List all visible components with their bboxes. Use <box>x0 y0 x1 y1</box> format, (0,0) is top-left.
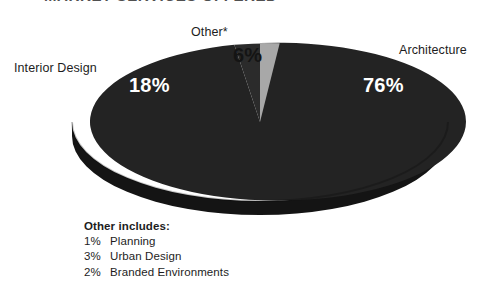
footnote-row: 3% Urban Design <box>84 249 229 264</box>
footnote-row: 1% Planning <box>84 234 229 249</box>
footnote-label: Branded Environments <box>110 265 229 280</box>
footnote-percent: 3% <box>84 249 110 264</box>
footnote-row: 2% Branded Environments <box>84 265 229 280</box>
callout-label-interior-design: Interior Design <box>14 61 97 75</box>
pie-slice-architecture <box>90 43 466 201</box>
chart-stage: Interior Design Other* Architecture 18% … <box>0 0 491 287</box>
callout-label-other: Other* <box>191 25 228 39</box>
callout-label-architecture: Architecture <box>399 43 467 57</box>
wedge-value-other: 6% <box>233 44 262 67</box>
footnote-label: Urban Design <box>110 249 182 264</box>
footnote-heading: Other includes: <box>84 219 229 234</box>
footnote-percent: 1% <box>84 234 110 249</box>
footnote-label: Planning <box>110 234 156 249</box>
wedge-value-interior-design: 18% <box>129 74 170 97</box>
pie-chart-page: MARKET SERVICES OFFERED <box>0 0 491 287</box>
footnote-percent: 2% <box>84 265 110 280</box>
footnote-block: Other includes: 1% Planning 3% Urban Des… <box>84 219 229 280</box>
wedge-value-architecture: 76% <box>363 74 404 97</box>
pie-top-face <box>90 43 466 201</box>
